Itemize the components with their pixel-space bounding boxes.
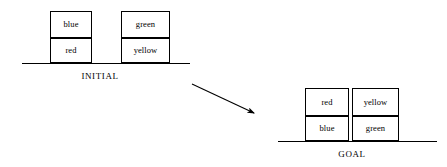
block-red[interactable]: red [51, 37, 91, 62]
goal-table-surface [278, 141, 437, 142]
block-blue[interactable]: blue [51, 12, 91, 37]
initial-state-scene: blue red green yellow INITIAL [0, 0, 200, 90]
goal-stack-red-blue[interactable]: red blue [305, 88, 349, 141]
block-red[interactable]: red [306, 89, 348, 115]
block-green[interactable]: green [353, 115, 398, 141]
goal-state-scene: red blue yellow green GOAL [270, 80, 447, 167]
block-yellow[interactable]: yellow [353, 89, 398, 115]
initial-state-caption: INITIAL [60, 71, 140, 81]
initial-stack-blue-red[interactable]: blue red [50, 11, 92, 63]
goal-stack-yellow-green[interactable]: yellow green [352, 88, 399, 141]
block-blue[interactable]: blue [306, 115, 348, 141]
block-yellow[interactable]: yellow [122, 37, 169, 62]
block-green[interactable]: green [122, 12, 169, 37]
initial-stack-green-yellow[interactable]: green yellow [121, 11, 170, 63]
goal-state-caption: GOAL [312, 149, 392, 159]
transition-arrow-icon [188, 78, 266, 124]
initial-table-surface [22, 63, 190, 64]
diagram-canvas: blue red green yellow INITIAL red blue y… [0, 0, 447, 167]
